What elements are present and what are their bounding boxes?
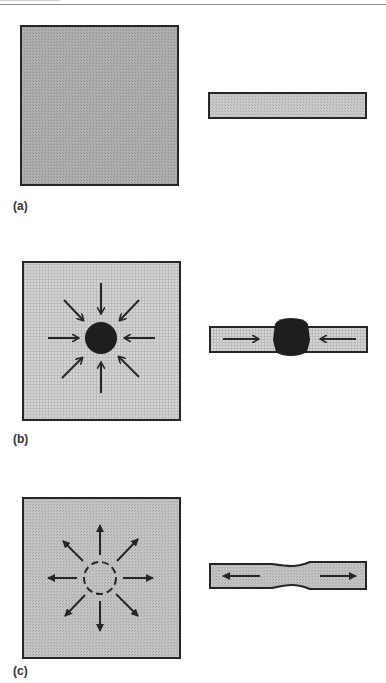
panel-label-b: (b) <box>13 432 28 446</box>
plate-c <box>23 498 180 658</box>
panel-b <box>23 262 367 420</box>
panel-label-c: (c) <box>13 664 28 678</box>
plate-a <box>21 26 178 185</box>
bulged-inclusion-icon <box>273 318 310 356</box>
strip-a <box>209 93 366 118</box>
stress-diagram <box>0 0 386 683</box>
panel-a <box>21 26 366 185</box>
panel-label-a: (a) <box>13 199 28 213</box>
panel-c <box>23 498 366 658</box>
inclusion-icon <box>85 322 117 354</box>
